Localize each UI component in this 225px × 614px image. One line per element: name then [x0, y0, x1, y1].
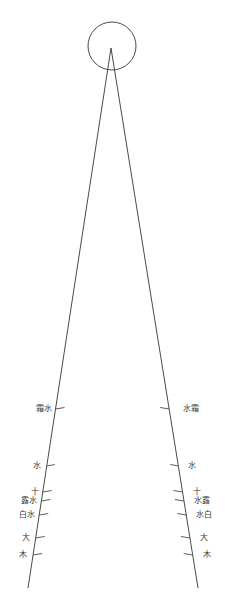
tick-label: 水露 [194, 495, 210, 505]
tick-label: 十 [31, 486, 39, 496]
tick-label: 白水 [19, 509, 35, 519]
tick-label: 十 [193, 486, 201, 496]
tick-label: 水 [33, 460, 41, 470]
tick-label: 水 [188, 460, 196, 470]
tick-label: 霜水 [36, 403, 52, 413]
tick-label: 大 [200, 532, 208, 542]
background-rect [0, 0, 225, 614]
tick-label: 大 [22, 532, 30, 542]
line-drawing-svg: 霜水水十露水白水大木 水霜水十水露水白大木 [0, 0, 225, 614]
tick-label: 水霜 [183, 403, 199, 413]
tick-label: 露水 [21, 495, 37, 505]
tick-label: 水白 [196, 509, 212, 519]
tick-label: 木 [19, 549, 27, 559]
diagram-canvas: · ·· ·· ···· ·· 霜水水十露水白水大木 水霜水十水露水白大木 [0, 0, 225, 614]
tick-label: 木 [203, 549, 211, 559]
